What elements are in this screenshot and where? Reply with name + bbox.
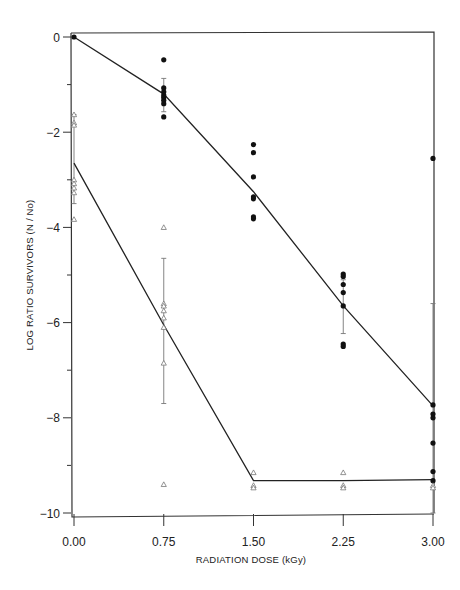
data-point-triangle bbox=[341, 470, 346, 475]
survival-chart: 0.000.751.502.253.00 0−2−4−6−8−10 RADIAT… bbox=[0, 0, 460, 590]
x-tick-label: 0.00 bbox=[62, 535, 86, 549]
x-tick-label: 1.50 bbox=[242, 535, 266, 549]
fit-line bbox=[74, 163, 433, 481]
y-tick-label: −10 bbox=[40, 507, 61, 521]
y-tick-label: −8 bbox=[46, 411, 60, 425]
data-point-triangle bbox=[161, 225, 166, 230]
data-point-circle bbox=[430, 469, 435, 474]
data-point-circle bbox=[251, 174, 256, 179]
x-tick-label: 0.75 bbox=[152, 535, 176, 549]
data-point-triangle bbox=[161, 360, 166, 365]
data-point-triangle bbox=[251, 470, 256, 475]
data-point-circle bbox=[341, 274, 346, 279]
plot-frame bbox=[71, 32, 434, 517]
data-point-circle bbox=[341, 303, 346, 308]
data-point-circle bbox=[341, 282, 346, 287]
fit-line bbox=[74, 37, 433, 406]
fit-lines bbox=[74, 37, 433, 481]
plot-border bbox=[71, 32, 434, 517]
data-point-triangle bbox=[161, 315, 166, 320]
data-point-circle bbox=[251, 142, 256, 147]
axis-ticks bbox=[63, 37, 433, 526]
data-point-circle bbox=[341, 290, 346, 295]
data-point-triangle bbox=[71, 217, 76, 222]
data-point-circle bbox=[251, 196, 256, 201]
data-point-circle bbox=[430, 415, 435, 420]
x-tick-label: 2.25 bbox=[332, 535, 356, 549]
x-tick-labels: 0.000.751.502.253.00 bbox=[62, 535, 445, 549]
data-point-circle bbox=[341, 344, 346, 349]
x-tick-label: 3.00 bbox=[421, 535, 445, 549]
y-tick-label: −2 bbox=[46, 126, 60, 140]
data-point-circle bbox=[430, 402, 435, 407]
data-point-triangle bbox=[71, 190, 76, 195]
data-point-circle bbox=[430, 156, 435, 161]
y-tick-labels: 0−2−4−6−8−10 bbox=[40, 31, 61, 521]
data-point-circle bbox=[430, 440, 435, 445]
data-markers bbox=[71, 34, 435, 489]
data-point-circle bbox=[161, 114, 166, 119]
y-tick-label: −4 bbox=[46, 221, 60, 235]
data-point-triangle bbox=[161, 308, 166, 313]
y-tick-label: 0 bbox=[53, 31, 60, 45]
data-point-circle bbox=[251, 216, 256, 221]
data-point-circle bbox=[161, 57, 166, 62]
data-point-circle bbox=[71, 34, 76, 39]
x-axis-title: RADIATION DOSE (kGy) bbox=[196, 554, 306, 565]
data-point-circle bbox=[251, 150, 256, 155]
data-point-triangle bbox=[161, 482, 166, 487]
data-point-circle bbox=[161, 101, 166, 106]
y-axis-title: LOG RATIO SURVIVORS (N / No) bbox=[24, 200, 35, 351]
y-tick-label: −6 bbox=[46, 316, 60, 330]
